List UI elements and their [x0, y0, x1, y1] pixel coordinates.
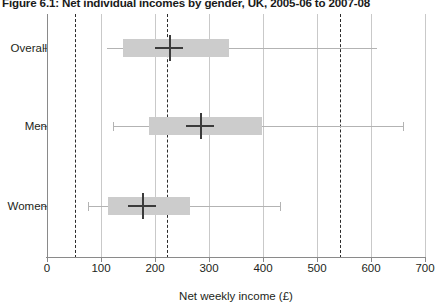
x-tick-label-100: 100 [91, 262, 110, 274]
whisker-cap-high [280, 202, 281, 211]
median-line [142, 193, 144, 219]
x-tick-label-600: 600 [361, 262, 380, 274]
x-axis-line [46, 257, 426, 258]
x-tick-label-500: 500 [307, 262, 326, 274]
x-tick-label-300: 300 [199, 262, 218, 274]
x-axis-title: Net weekly income (£) [47, 290, 425, 302]
y-axis-label-overall: Overall [0, 42, 47, 54]
x-tick-label-0: 0 [44, 262, 50, 274]
lower-reference-line [75, 14, 76, 258]
x-tick-label-200: 200 [145, 262, 164, 274]
median-line [200, 113, 202, 139]
gridline-700 [425, 14, 426, 258]
y-axis-label-women: Women [0, 200, 47, 212]
y-axis-line [47, 14, 48, 258]
upper-reference-line [340, 14, 341, 258]
y-axis-label-men: Men [0, 120, 47, 132]
chart-title: Figure 6.1: Net individual incomes by ge… [2, 0, 443, 9]
whisker-cap-low [88, 202, 89, 211]
whisker-cap-low [113, 122, 114, 131]
whisker-cap-high [403, 122, 404, 131]
x-tick-label-400: 400 [253, 262, 272, 274]
x-tick-label-700: 700 [415, 262, 434, 274]
gridline-500 [317, 14, 318, 258]
gridline-600 [371, 14, 372, 258]
gridline-400 [263, 14, 264, 258]
median-line [169, 35, 171, 61]
plot-area: 0100200300400500600700 Net weekly income… [47, 14, 425, 258]
gridline-100 [101, 14, 102, 258]
